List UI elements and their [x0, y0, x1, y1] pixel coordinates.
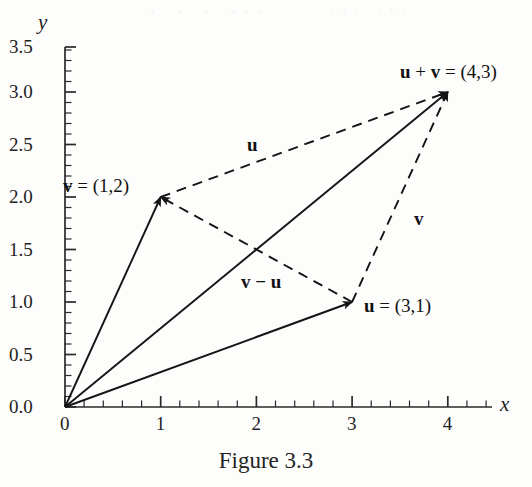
vector-u-solid — [65, 302, 352, 407]
y-tick-label-2-5: 2.5 — [9, 135, 33, 154]
annotation-u-point: u = (3,1) — [364, 296, 431, 315]
vector-v-dashed — [352, 92, 448, 302]
annotation-v-point: v = (1,2) — [63, 176, 129, 195]
x-axis-label: x — [500, 394, 509, 415]
y-axis-label: y — [38, 12, 47, 33]
annotation-v-point-symbol: v — [63, 175, 73, 196]
annotation-u-point-value: = (3,1) — [375, 295, 432, 316]
x-tick-label-4: 4 — [443, 414, 453, 433]
annotation-sum-symbol-v: v — [431, 61, 441, 82]
annotation-sum-symbol-u: u — [400, 61, 411, 82]
y-axis — [65, 47, 76, 407]
y-tick-label-2-0: 2.0 — [9, 187, 33, 206]
x-axis — [65, 396, 492, 407]
y-tick-label-3-5: 3.5 — [9, 37, 33, 56]
x-tick-label-0: 0 — [60, 414, 70, 433]
annotation-sum-plus: + — [411, 61, 431, 82]
y-tick-label-0-5: 0.5 — [9, 345, 33, 364]
figure-3-3: · · · ··· ··· ··· — [0, 0, 532, 487]
y-tick-label-3-0: 3.0 — [9, 82, 33, 101]
annotation-sum-value: = (4,3) — [440, 61, 497, 82]
annotation-sum-point: u + v = (4,3) — [400, 62, 497, 81]
annotation-v-point-value: = (1,2) — [73, 175, 130, 196]
vector-v-solid — [65, 197, 161, 407]
x-tick-label-2: 2 — [251, 414, 261, 433]
y-tick-label-1-0: 1.0 — [9, 292, 33, 311]
y-tick-label-1-5: 1.5 — [9, 240, 33, 259]
annotation-v-minus-u: v − u — [241, 272, 281, 291]
x-tick-label-1: 1 — [156, 414, 166, 433]
x-tick-label-3: 3 — [347, 414, 357, 433]
annotation-u-point-symbol: u — [364, 295, 375, 316]
y-tick-label-0-0: 0.0 — [9, 397, 33, 416]
annotation-u-dashed: u — [247, 135, 258, 154]
annotation-v-dashed: v — [414, 209, 424, 228]
vector-u-dashed — [161, 92, 448, 197]
figure-caption: Figure 3.3 — [0, 448, 532, 474]
